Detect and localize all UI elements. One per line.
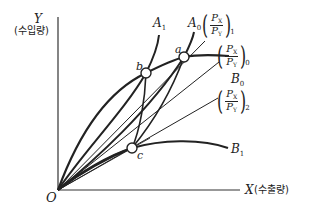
point-label-b: b: [136, 61, 143, 72]
point-label-c: c: [137, 150, 143, 161]
y-axis-label: Y: [34, 13, 42, 25]
price-ratio-label-1: ( PXPY ) 1: [200, 12, 235, 38]
curve-label-A1: A1: [153, 17, 166, 32]
price-ray-1: [58, 41, 205, 190]
offer-curve-A1: [58, 35, 159, 190]
curve-label-B1: B1: [231, 143, 244, 158]
x-axis-sublabel: (수출량): [254, 185, 289, 195]
y-axis-sublabel: (수입량): [14, 26, 49, 36]
price-ratio-label-0: ( PXPY ) 0: [215, 43, 250, 69]
offer-curve-B1: [58, 141, 228, 190]
price-ratio-label-2: ( PXPY ) 2: [215, 88, 250, 114]
x-axis-label: X: [245, 184, 254, 196]
offer-curve-A0-branch: [58, 57, 184, 190]
offer-curve-A0: [58, 32, 194, 190]
point-label-a: a: [175, 44, 182, 55]
point-c: [127, 143, 137, 153]
origin-label: O: [46, 191, 57, 204]
